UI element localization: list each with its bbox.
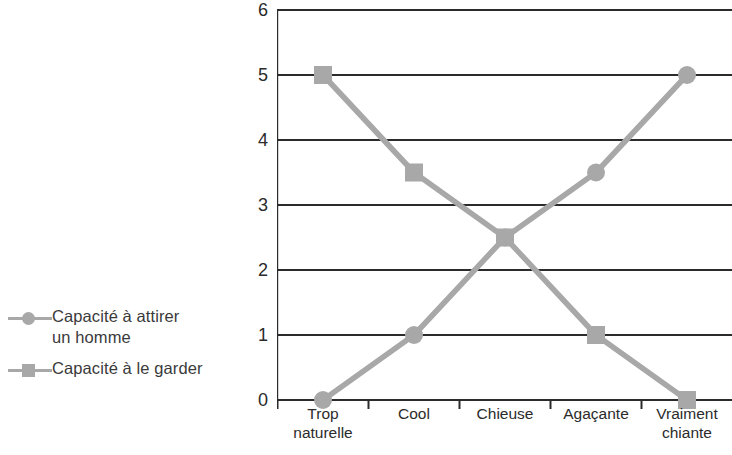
x-tick-label: Vraiment chiante xyxy=(632,404,732,442)
data-point-marker xyxy=(587,326,605,344)
data-point-marker xyxy=(587,164,605,182)
y-tick-label: 0 xyxy=(238,390,268,411)
data-point-marker xyxy=(405,326,423,344)
circle-marker-icon xyxy=(8,308,52,328)
line-chart: Capacité à attirer un homme Capacité à l… xyxy=(0,0,732,455)
x-axis-labels: Trop naturelleCoolChieuseAgaçanteVraimen… xyxy=(277,404,732,455)
y-tick-label: 5 xyxy=(238,65,268,86)
legend-item-garder: Capacité à le garder xyxy=(8,358,203,380)
y-tick-label: 3 xyxy=(238,195,268,216)
data-point-marker xyxy=(496,229,514,247)
legend-item-attirer: Capacité à attirer un homme xyxy=(8,306,179,348)
plot-area xyxy=(277,0,732,410)
y-tick-label: 1 xyxy=(238,325,268,346)
legend-label-garder: Capacité à le garder xyxy=(52,358,203,379)
legend-label-attirer: Capacité à attirer un homme xyxy=(52,306,179,348)
data-point-marker xyxy=(678,66,696,84)
y-tick-label: 6 xyxy=(238,0,268,21)
y-tick-label: 4 xyxy=(238,130,268,151)
y-axis-labels: 0123456 xyxy=(232,0,268,410)
plot-svg xyxy=(277,0,732,410)
y-tick-label: 2 xyxy=(238,260,268,281)
data-point-marker xyxy=(314,66,332,84)
data-point-marker xyxy=(405,164,423,182)
square-marker-icon xyxy=(8,360,52,380)
